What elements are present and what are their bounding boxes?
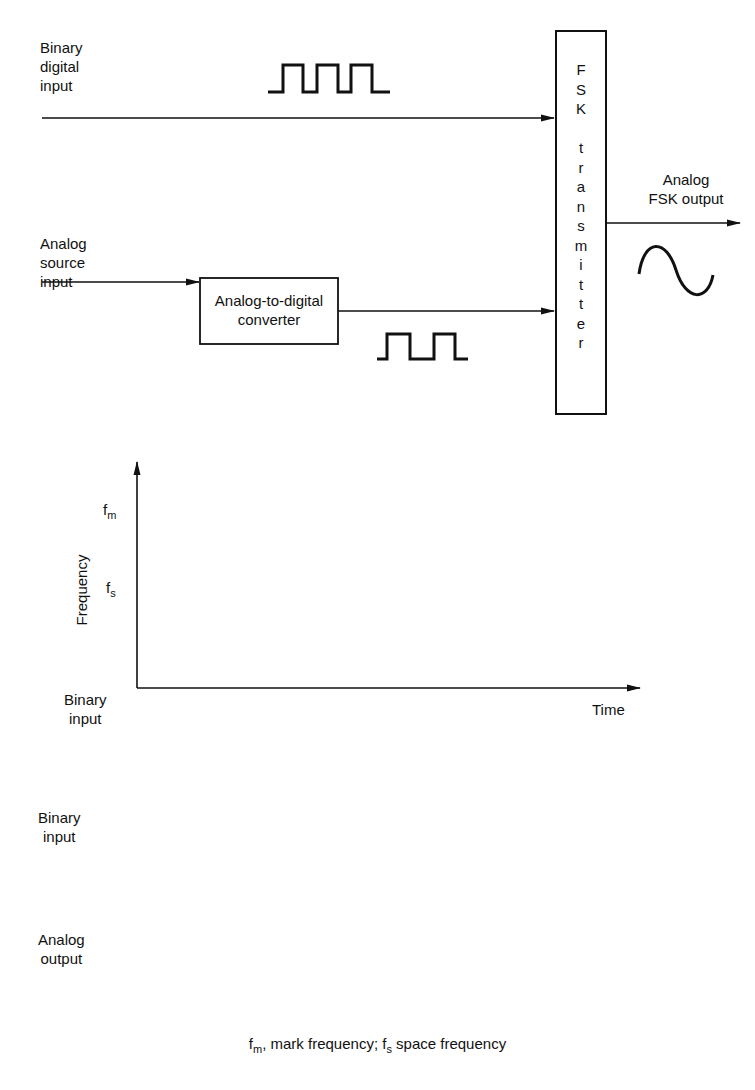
fsk-diagram-canvas <box>0 0 755 1090</box>
binary-square-wave-icon <box>268 65 390 92</box>
chart1-x-axis-label: Time <box>592 700 625 719</box>
chart1-y-axis-label: Frequency <box>72 540 91 640</box>
chart1-fs-tick: fs <box>106 578 116 599</box>
chart2-analog-output-label: Analog output <box>38 930 85 968</box>
analog-source-input-label: Analog source input <box>40 234 87 291</box>
adc-square-wave-icon <box>377 334 468 359</box>
sine-wave-icon <box>639 246 713 294</box>
chart1-row-label: Binary input <box>64 690 107 728</box>
binary-digital-input-label: Binary digital input <box>40 38 83 95</box>
fsk-transmitter-label: F S K t r a n s m i t t e r <box>571 60 591 353</box>
analog-fsk-output-label: Analog FSK output <box>628 170 744 208</box>
adc-label: Analog-to-digital converter <box>200 291 338 329</box>
caption: fm, mark frequency; fs space frequency <box>0 1034 755 1055</box>
chart2-binary-input-label: Binary input <box>38 808 81 846</box>
chart1-fm-tick: fm <box>103 500 116 521</box>
